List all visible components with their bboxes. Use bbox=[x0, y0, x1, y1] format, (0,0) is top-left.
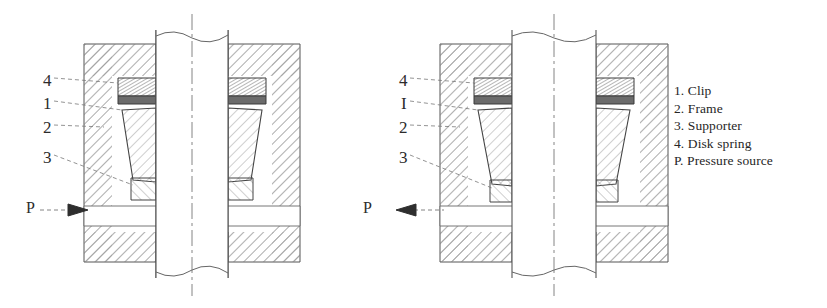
legend-item-frame: 2. Frame bbox=[674, 100, 826, 118]
left-disk-spring-right bbox=[228, 78, 266, 104]
right-callout-2: 2 bbox=[399, 119, 408, 136]
left-supporter-left bbox=[131, 178, 156, 200]
left-disk-spring-left bbox=[118, 78, 156, 104]
left-assembly bbox=[40, 14, 300, 296]
right-callout-3: 3 bbox=[399, 149, 408, 166]
left-pressure-arrow bbox=[40, 204, 88, 216]
legend-item-pressure-source: P. Pressure source bbox=[674, 152, 826, 170]
left-callout-4: 4 bbox=[43, 72, 52, 89]
diagram-canvas: 4 1 2 3 P 4 I 2 3 P 1. Clip 2. Frame 3. … bbox=[0, 0, 827, 308]
right-pressure-label: P bbox=[363, 200, 372, 216]
right-disk-spring-right bbox=[596, 78, 634, 104]
left-supporter-right bbox=[228, 178, 253, 200]
right-supporter-right bbox=[596, 180, 618, 202]
right-supporter-left bbox=[490, 180, 512, 202]
right-shaft bbox=[512, 14, 596, 296]
right-assembly bbox=[396, 14, 668, 296]
left-callout-2: 2 bbox=[43, 119, 52, 136]
legend: 1. Clip 2. Frame 3. Supporter 4. Disk sp… bbox=[674, 82, 826, 170]
legend-item-disk-spring: 4. Disk spring bbox=[674, 135, 826, 153]
legend-item-clip: 1. Clip bbox=[674, 82, 826, 100]
left-pressure-label: P bbox=[26, 200, 35, 216]
legend-item-supporter: 3. Supporter bbox=[674, 117, 826, 135]
right-callout-1: I bbox=[401, 95, 407, 112]
left-callout-3: 3 bbox=[43, 149, 52, 166]
left-callout-1: 1 bbox=[43, 95, 52, 112]
right-disk-spring-left bbox=[474, 78, 512, 104]
right-pressure-arrow bbox=[396, 204, 444, 216]
left-shaft bbox=[156, 14, 228, 296]
right-callout-4: 4 bbox=[399, 72, 408, 89]
